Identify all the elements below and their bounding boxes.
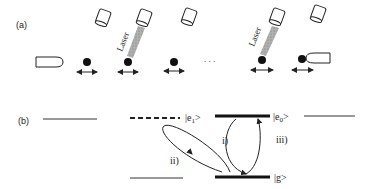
laser-beam-1 bbox=[127, 26, 145, 58]
transition-i-label: i) bbox=[222, 135, 228, 147]
panel-a-label: (a) bbox=[16, 20, 27, 30]
detector-1 bbox=[95, 8, 112, 27]
panel-b-label: (b) bbox=[18, 116, 29, 126]
transition-iii-label: iii) bbox=[276, 134, 288, 146]
transition-i-arrow bbox=[226, 119, 246, 174]
ion-2 bbox=[124, 58, 132, 66]
panel-a: (a) Laser Laser bbox=[16, 4, 330, 72]
detector-3 bbox=[181, 7, 198, 26]
ellipsis: . . . bbox=[204, 54, 215, 64]
transition-ii-label: ii) bbox=[170, 155, 179, 167]
laser-label-1: Laser bbox=[115, 30, 132, 52]
state-e0-label: |e0> bbox=[273, 111, 289, 124]
state-g-label: |g> bbox=[274, 172, 287, 183]
right-end-cap-electrode bbox=[306, 53, 330, 63]
left-end-cap-electrode bbox=[36, 57, 63, 67]
panel-b: (b) |e1> |e0> |g> i) ii) iii) bbox=[18, 111, 355, 183]
ion-3 bbox=[170, 58, 178, 66]
transition-iii-arrow bbox=[246, 119, 260, 174]
detector-4 bbox=[269, 7, 286, 26]
laser-label-2: Laser bbox=[247, 25, 264, 47]
detector-2 bbox=[136, 8, 153, 27]
ion-4 bbox=[258, 56, 266, 64]
ion-1 bbox=[83, 58, 91, 66]
transition-ii-arrowhead bbox=[188, 150, 192, 154]
ion-5 bbox=[298, 55, 306, 63]
detector-5 bbox=[310, 4, 327, 23]
state-e1-label: |e1> bbox=[185, 112, 201, 125]
laser-beam-2 bbox=[260, 26, 279, 56]
diagram-canvas: (a) Laser Laser bbox=[0, 0, 368, 189]
